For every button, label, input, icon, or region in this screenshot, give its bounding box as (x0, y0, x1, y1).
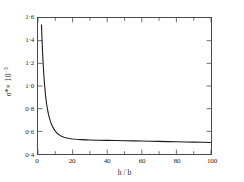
y-axis-title-exponent: −3 (3, 67, 9, 73)
figure-container: 1·61·41·21·00·80·60·4 σ*× 10−3 020406080… (0, 0, 244, 182)
data-curve (41, 25, 211, 143)
x-tick-label: 0 (35, 158, 38, 165)
x-tick-label: 60 (139, 158, 146, 165)
y-tick-label: 1·4 (25, 37, 34, 44)
y-axis-title-symbol: σ* (4, 88, 13, 96)
y-tick-label: 1·6 (25, 14, 34, 21)
axis-ticks (38, 18, 211, 154)
x-tick-label: 40 (104, 158, 111, 165)
x-tick-label: 80 (174, 158, 181, 165)
x-axis-title: h / b (37, 169, 212, 177)
y-tick-label: 1·0 (25, 83, 34, 90)
plot-area (37, 17, 212, 155)
y-tick-label: 1·2 (25, 60, 34, 67)
y-axis-title: σ*× 10−3 (5, 54, 13, 110)
y-axis-title-multiplier: × 10 (4, 73, 13, 88)
y-tick-label: 0·4 (25, 152, 34, 159)
y-tick-label: 0·6 (25, 129, 34, 136)
plot-canvas (38, 18, 211, 154)
x-tick-label: 100 (207, 158, 217, 165)
x-tick-label: 20 (69, 158, 76, 165)
y-tick-label: 0·8 (25, 106, 34, 113)
